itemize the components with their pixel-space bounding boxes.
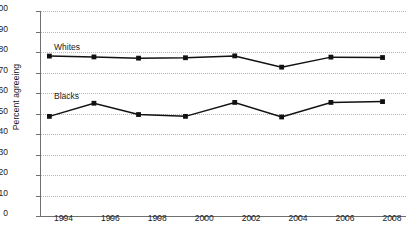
data-point-whites-6 xyxy=(329,55,334,60)
data-point-blacks-0 xyxy=(47,114,52,119)
series-label-whites: Whites xyxy=(54,42,80,52)
y-tick-label-100: 100 xyxy=(0,8,8,9)
data-point-blacks-6 xyxy=(329,100,334,105)
y-axis-title: Percent agreeing xyxy=(11,37,21,157)
data-point-whites-3 xyxy=(183,55,188,60)
y-tick-label-40: 40 xyxy=(0,131,8,132)
y-tick-label-20: 20 xyxy=(0,172,8,173)
y-tick-label-70: 70 xyxy=(0,70,8,71)
x-tick-label-2006: 2006 xyxy=(325,213,365,223)
y-tick-label-0: 0 xyxy=(0,213,8,214)
data-point-blacks-1 xyxy=(92,101,97,106)
plot-area: WhitesBlacks xyxy=(40,11,406,216)
y-tick-label-30: 30 xyxy=(0,152,8,153)
y-tick-label-80: 80 xyxy=(0,49,8,50)
chart-container: Percent agreeing WhitesBlacks 0102030405… xyxy=(0,0,417,246)
y-tick-label-90: 90 xyxy=(0,29,8,30)
data-point-blacks-7 xyxy=(380,99,385,104)
data-point-blacks-2 xyxy=(136,112,141,117)
x-tick-label-2000: 2000 xyxy=(184,213,224,223)
data-point-blacks-5 xyxy=(279,115,284,120)
data-point-whites-1 xyxy=(92,55,97,60)
data-point-whites-4 xyxy=(232,54,237,59)
x-tick-label-1996: 1996 xyxy=(90,213,130,223)
x-tick-label-1998: 1998 xyxy=(137,213,177,223)
data-point-whites-7 xyxy=(380,55,385,60)
data-point-blacks-3 xyxy=(183,114,188,119)
y-tick-label-60: 60 xyxy=(0,90,8,91)
data-point-whites-5 xyxy=(279,65,284,70)
series-layer xyxy=(40,11,406,216)
x-tick-label-2004: 2004 xyxy=(278,213,318,223)
series-label-blacks: Blacks xyxy=(54,91,79,101)
x-tick-label-1994: 1994 xyxy=(43,213,83,223)
data-point-blacks-4 xyxy=(232,100,237,105)
data-point-whites-0 xyxy=(47,54,52,59)
y-tick-label-50: 50 xyxy=(0,111,8,112)
x-tick-label-2008: 2008 xyxy=(372,213,412,223)
x-tick-label-2002: 2002 xyxy=(231,213,271,223)
data-point-whites-2 xyxy=(136,56,141,61)
y-tick-label-10: 10 xyxy=(0,193,8,194)
plot-inner: WhitesBlacks xyxy=(40,11,406,216)
